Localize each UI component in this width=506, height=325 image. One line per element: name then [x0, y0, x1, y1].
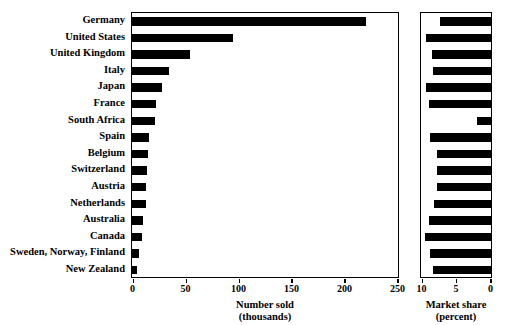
- bar: [429, 100, 491, 109]
- axis-tick-label: 0: [488, 283, 493, 294]
- bar: [437, 183, 491, 192]
- bar: [433, 266, 491, 275]
- chart-figure: GermanyUnited StatesUnited KingdomItalyJ…: [0, 0, 506, 325]
- bar-row: [132, 229, 398, 246]
- bar: [132, 34, 233, 43]
- bar-row: [421, 229, 491, 246]
- bar: [430, 249, 491, 258]
- bar: [425, 233, 491, 242]
- x-axis-title-line1: Number sold: [131, 299, 399, 312]
- category-label: Australia: [0, 211, 130, 228]
- panel-market-share: 1050 Market share (percent): [420, 12, 492, 278]
- plot-area-market-share: [420, 12, 492, 278]
- bar: [132, 117, 155, 126]
- bar-row: [132, 96, 398, 113]
- axis-tick-label: 5: [454, 283, 459, 294]
- bar: [132, 133, 149, 142]
- bar-row: [132, 13, 398, 30]
- bar-row: [132, 46, 398, 63]
- axis-tick-label: 150: [284, 283, 299, 294]
- bar: [132, 166, 147, 175]
- category-label: Belgium: [0, 145, 130, 162]
- bar-row: [132, 212, 398, 229]
- bar: [132, 50, 190, 59]
- bar: [132, 200, 146, 209]
- plot-area-number-sold: [131, 12, 399, 278]
- bar-row: [132, 113, 398, 130]
- bar-row: [421, 46, 491, 63]
- bar: [437, 150, 491, 159]
- category-label: Switzerland: [0, 161, 130, 178]
- bar-row: [132, 196, 398, 213]
- bar: [432, 50, 491, 59]
- bar-row: [421, 262, 491, 279]
- bar-row: [132, 129, 398, 146]
- bar-row: [132, 146, 398, 163]
- bar-row: [421, 212, 491, 229]
- category-label: United States: [0, 29, 130, 46]
- bar: [440, 17, 491, 26]
- x-axis-title-market-share: Market share (percent): [420, 299, 492, 324]
- bar: [132, 183, 146, 192]
- bar-row: [421, 129, 491, 146]
- bar-row: [132, 63, 398, 80]
- bar-row: [421, 179, 491, 196]
- category-label: Netherlands: [0, 195, 130, 212]
- axis-tick-label: 100: [231, 283, 246, 294]
- category-label: New Zealand: [0, 261, 130, 278]
- bar: [132, 266, 137, 275]
- category-label: Italy: [0, 62, 130, 79]
- bar-row: [421, 162, 491, 179]
- bar-row: [132, 30, 398, 47]
- bar: [132, 216, 143, 225]
- bar-row: [132, 245, 398, 262]
- bar: [132, 17, 366, 26]
- bar-row: [421, 245, 491, 262]
- bar-row: [421, 79, 491, 96]
- x-axis-title-line2: (thousands): [131, 311, 399, 324]
- category-label: Germany: [0, 12, 130, 29]
- bar: [132, 83, 162, 92]
- axis-tick-label: 10: [417, 283, 427, 294]
- category-label: South Africa: [0, 112, 130, 129]
- bar-row: [421, 30, 491, 47]
- axis-tick-label: 200: [337, 283, 352, 294]
- bar-row: [132, 162, 398, 179]
- category-label: Canada: [0, 228, 130, 245]
- x-axis-title-line2: (percent): [420, 311, 492, 324]
- bar: [132, 249, 139, 258]
- bar: [132, 233, 142, 242]
- axis-tick-label: 0: [130, 283, 135, 294]
- panel-number-sold: 050100150200250 Number sold (thousands): [131, 12, 399, 278]
- category-label: United Kingdom: [0, 45, 130, 62]
- bar-row: [421, 196, 491, 213]
- bar-row: [132, 79, 398, 96]
- bar: [437, 166, 491, 175]
- category-label: Sweden, Norway, Finland: [0, 244, 130, 261]
- bar: [433, 67, 491, 76]
- x-axis-number-sold: 050100150200250: [131, 279, 399, 297]
- x-axis-title-line1: Market share: [420, 299, 492, 312]
- bar: [132, 67, 169, 76]
- x-axis-market-share: 1050: [420, 279, 492, 297]
- bar-row: [132, 179, 398, 196]
- bar-row: [132, 262, 398, 279]
- category-label-list: GermanyUnited StatesUnited KingdomItalyJ…: [0, 12, 130, 278]
- bar: [477, 117, 491, 126]
- axis-tick-label: 50: [181, 283, 191, 294]
- bar: [429, 216, 491, 225]
- bar: [132, 100, 156, 109]
- bar-row: [421, 63, 491, 80]
- bar: [132, 150, 148, 159]
- category-label: Austria: [0, 178, 130, 195]
- category-label: Japan: [0, 78, 130, 95]
- bar-row: [421, 113, 491, 130]
- bar: [426, 83, 491, 92]
- bar-row: [421, 146, 491, 163]
- category-label: France: [0, 95, 130, 112]
- bar-row: [421, 13, 491, 30]
- bar: [434, 200, 491, 209]
- bar: [430, 133, 491, 142]
- x-axis-title-number-sold: Number sold (thousands): [131, 299, 399, 324]
- bar: [426, 34, 491, 43]
